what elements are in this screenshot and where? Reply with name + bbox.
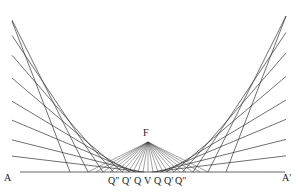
tangent-line [226, 16, 286, 172]
focal-ray [148, 142, 186, 172]
parabola-diagram: A A′ F Q″ Q′ Q V Q Q′ Q″ [0, 0, 298, 194]
label-Q-right: Q [154, 176, 161, 186]
label-Q1-left: Q′ [122, 176, 131, 186]
label-Q2-right: Q″ [175, 176, 186, 186]
label-Q1-right: Q′ [164, 176, 173, 186]
diagram-canvas [0, 0, 298, 194]
label-Q2-left: Q″ [108, 176, 119, 186]
label-A-prime: A′ [282, 173, 291, 183]
focal-ray [128, 142, 148, 172]
label-Q-left: Q [134, 176, 141, 186]
focal-ray [148, 142, 208, 172]
label-A: A [4, 173, 11, 183]
tangent-line [183, 53, 287, 172]
focal-ray [88, 142, 148, 172]
tangent-line [12, 55, 114, 172]
label-F: F [143, 128, 149, 138]
focal-ray [148, 142, 168, 172]
label-V: V [144, 176, 151, 186]
tangent-line [12, 101, 130, 172]
focal-ray [110, 142, 148, 172]
tangent-line [208, 16, 286, 172]
tangent-line [12, 21, 70, 172]
